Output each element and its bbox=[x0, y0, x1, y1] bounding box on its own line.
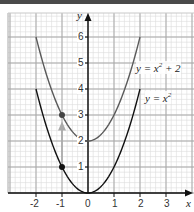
y-tick-label: 6 bbox=[77, 32, 85, 42]
plot-area bbox=[0, 0, 194, 212]
translation-arrow-head-icon bbox=[58, 122, 66, 131]
eq-upper-prefix: y = x bbox=[136, 62, 159, 74]
y-tick-label: 3 bbox=[77, 110, 85, 120]
legend-lower-curve: y = x2 bbox=[145, 91, 171, 104]
y-tick-label: 5 bbox=[77, 58, 85, 68]
eq-upper-suffix: + 2 bbox=[162, 62, 180, 74]
y-axis-label: y bbox=[77, 9, 82, 21]
data-point bbox=[59, 112, 65, 118]
y-tick-label: 1 bbox=[77, 162, 85, 172]
eq-lower-exp: 2 bbox=[168, 91, 172, 99]
x-tick-label: 1 bbox=[112, 199, 118, 209]
y-tick-label: 2 bbox=[77, 136, 85, 146]
x-tick-label: 3 bbox=[164, 199, 170, 209]
x-tick-label: -2 bbox=[30, 199, 39, 209]
eq-lower-prefix: y = x bbox=[145, 92, 168, 104]
data-point bbox=[59, 164, 65, 170]
y-tick-label: 4 bbox=[77, 84, 85, 94]
x-tick-label: 2 bbox=[138, 199, 144, 209]
legend-upper-curve: y = x2 + 2 bbox=[136, 61, 181, 74]
x-tick-label: 0 bbox=[85, 199, 91, 209]
x-axis-label: x bbox=[186, 197, 191, 209]
y-axis-arrow-icon bbox=[85, 13, 92, 21]
x-tick-label: -1 bbox=[56, 199, 65, 209]
